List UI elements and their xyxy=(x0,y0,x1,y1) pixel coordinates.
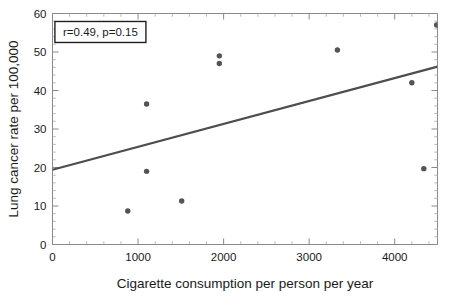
data-point xyxy=(144,101,149,106)
x-tick-label: 0 xyxy=(49,251,55,263)
x-axis-title: Cigarette consumption per person per yea… xyxy=(117,276,374,291)
data-point xyxy=(421,166,426,171)
scatter-plot: 010002000300040000102030405060 r=0.49, p… xyxy=(0,0,450,297)
y-tick-label: 0 xyxy=(40,239,46,251)
y-tick-label: 60 xyxy=(34,8,47,20)
data-point xyxy=(335,47,340,52)
annotation-group: r=0.49, p=0.15 xyxy=(55,21,146,42)
annotation-text: r=0.49, p=0.15 xyxy=(63,26,138,38)
y-tick-label: 40 xyxy=(34,85,47,97)
x-tick-label: 4000 xyxy=(382,251,408,263)
y-tick-label: 20 xyxy=(34,162,47,174)
data-point xyxy=(125,208,130,213)
data-point xyxy=(217,53,222,58)
y-tick-label: 10 xyxy=(34,200,47,212)
data-point xyxy=(409,80,414,85)
y-tick-label: 30 xyxy=(34,123,47,135)
x-tick-label: 2000 xyxy=(211,251,237,263)
data-point xyxy=(179,198,184,203)
y-axis-title: Lung cancer rate per 100,000 xyxy=(6,40,21,217)
data-point xyxy=(217,61,222,66)
y-tick-label: 50 xyxy=(34,46,47,58)
chart-page: 010002000300040000102030405060 r=0.49, p… xyxy=(0,0,450,297)
x-tick-label: 1000 xyxy=(125,251,151,263)
x-tick-label: 3000 xyxy=(296,251,322,263)
data-point xyxy=(144,169,149,174)
